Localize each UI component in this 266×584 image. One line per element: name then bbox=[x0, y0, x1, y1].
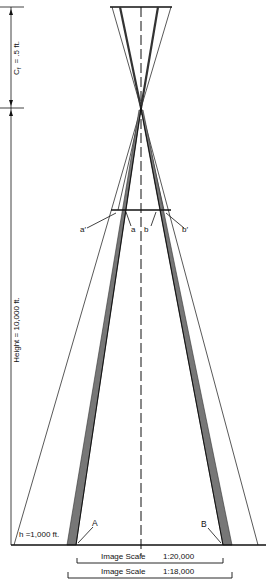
leader-a bbox=[126, 212, 131, 226]
leader-A bbox=[78, 527, 93, 543]
left-ray-band bbox=[67, 110, 141, 545]
focal-length-label: Cf= .5 ft. bbox=[12, 41, 22, 75]
scale1-value: 1:20,000 bbox=[163, 552, 195, 561]
ray-to-B bbox=[141, 108, 223, 545]
ray-to-A bbox=[76, 108, 141, 545]
lower-outer-left-ray bbox=[14, 108, 141, 545]
upper-inner-left-ray bbox=[120, 7, 141, 108]
flying-height-label: Height = 10,000 ft. bbox=[12, 297, 21, 363]
arrow-up-icon bbox=[9, 9, 13, 15]
leader-B bbox=[208, 528, 221, 543]
arrow-down-icon bbox=[9, 100, 13, 106]
photogrammetry-scale-diagram: Cf= .5 ft. Height = 10,000 ft. h =1,000 … bbox=[0, 0, 266, 584]
upper-outer-left-ray bbox=[112, 7, 141, 108]
scale1-label: Image Scale bbox=[101, 552, 146, 561]
label-b: b bbox=[144, 225, 149, 234]
label-a: a bbox=[131, 225, 136, 234]
leader-b bbox=[151, 212, 156, 226]
leader-a-prime bbox=[87, 213, 116, 228]
scale2-value: 1:18,000 bbox=[163, 567, 195, 576]
label-b-prime: b′ bbox=[182, 225, 188, 234]
label-A: A bbox=[92, 518, 98, 528]
scale2-label: Image Scale bbox=[101, 567, 146, 576]
scale-bracket-20000 bbox=[77, 558, 223, 563]
scale-bracket-18000 bbox=[68, 572, 232, 578]
label-B: B bbox=[201, 519, 207, 529]
upper-inner-right-ray bbox=[141, 7, 158, 108]
label-a-prime: a′ bbox=[80, 225, 86, 234]
terrain-height-label: h =1,000 ft. bbox=[19, 530, 59, 539]
arrow-up-icon bbox=[9, 110, 13, 116]
lower-outer-right-ray bbox=[141, 108, 258, 545]
right-ray-band bbox=[141, 110, 232, 545]
